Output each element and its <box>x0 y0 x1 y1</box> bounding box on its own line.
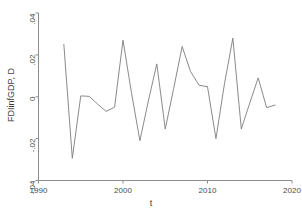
x-tick-label: 2010 <box>188 186 228 195</box>
y-tick-label: 0 <box>28 97 37 130</box>
x-axis-title: t <box>0 198 302 208</box>
chart-container: .04.020-.02-.04 1990200020102020 FDIinfG… <box>0 0 302 213</box>
axis-lines <box>39 13 293 181</box>
x-tick-label: 1990 <box>19 186 59 195</box>
plot-area <box>0 0 302 213</box>
y-tick-label: -.02 <box>28 139 37 172</box>
y-tick-label: .04 <box>28 13 37 46</box>
x-tick-label: 2020 <box>272 186 302 195</box>
data-line-fdiinfgdp-d <box>64 38 275 158</box>
x-tick-label: 2000 <box>103 186 143 195</box>
y-axis-title: FDIinfGDP, D <box>6 40 16 150</box>
y-tick-label: .02 <box>28 55 37 88</box>
